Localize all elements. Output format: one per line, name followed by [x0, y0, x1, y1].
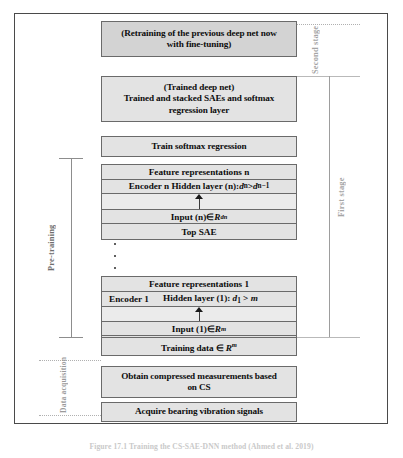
- second-stage-top-rule: [297, 24, 360, 25]
- retraining-line-1: (Retraining of the previous deep net now: [121, 28, 277, 40]
- top-sae-group: Feature representations n Encoder n Hidd…: [101, 164, 297, 240]
- data-acquisition-bottom-rule: [39, 415, 101, 416]
- vertical-ellipsis-icon: [112, 243, 118, 269]
- top-sae-name-row: Top SAE: [102, 224, 296, 239]
- top-sae-hidden-row: Encoder n Hidden layer (n): dn > dn−1: [102, 180, 296, 195]
- obtain-cs-line-2: on CS: [187, 382, 210, 394]
- data-acquisition-top-rule: [39, 360, 101, 361]
- retraining-block: (Retraining of the previous deep net now…: [101, 21, 297, 57]
- retraining-line-2: with fine-tuning): [167, 39, 231, 51]
- top-sae-input-row: Input (n) ∈ Rdn: [102, 210, 296, 225]
- top-sae-features-label: Feature representations n: [149, 167, 250, 177]
- train-softmax-label: Train softmax regression: [151, 141, 246, 153]
- obtain-cs-line-1: Obtain compressed measurements based: [121, 371, 277, 383]
- first-sae-hidden-rel: >: [241, 293, 251, 303]
- top-sae-name: Top SAE: [181, 227, 216, 237]
- trained-deep-net-line-2: Trained and stacked SAEs and softmax: [124, 93, 275, 105]
- obtain-cs-block: Obtain compressed measurements based on …: [101, 366, 297, 398]
- trained-deep-net-line-1: (Trained deep net): [164, 82, 235, 94]
- first-sae-input-row: Input (1) ∈ Rm: [102, 322, 296, 337]
- first-stage-spine: [329, 76, 330, 337]
- up-arrow-icon: [195, 194, 204, 209]
- top-sae-hidden-label: Hidden layer (n):: [171, 181, 239, 191]
- first-sae-encoder-label: Encoder 1: [109, 294, 149, 304]
- training-data-member: ∈: [216, 343, 226, 353]
- first-sae-features-label: Feature representations 1: [149, 279, 249, 289]
- training-data-expression: Training data ∈ Rm: [161, 339, 237, 355]
- figure-caption: Figure 17.1 Training the CS-SAE-DNN meth…: [0, 442, 403, 451]
- top-sae-hidden-rhs-sub: n−1: [258, 181, 270, 191]
- top-sae-encoder-label: Encoder n: [129, 181, 169, 191]
- first-sae-features-row: Feature representations 1: [102, 277, 296, 292]
- first-sae-hidden-expression: Hidden layer (1): d1 > m: [149, 293, 296, 306]
- second-stage-label: Second stage: [311, 30, 320, 74]
- top-sae-input-exponent-sub: n: [224, 212, 228, 222]
- first-sae-hidden-label: Hidden layer (1):: [163, 293, 233, 303]
- first-sae-connector-row: [102, 307, 296, 322]
- first-stage-bottom-rule: [297, 337, 360, 338]
- figure-frame: Second stage First stage Pre-training Da…: [14, 13, 388, 424]
- pretraining-label: Pre-training: [47, 209, 56, 287]
- pretraining-bracket: [59, 158, 83, 338]
- first-sae-input-exponent: m: [221, 324, 226, 334]
- first-sae-input-member: ∈: [207, 324, 215, 334]
- training-data-prefix: Training data: [161, 343, 216, 353]
- acquire-signals-label: Acquire bearing vibration signals: [135, 406, 263, 418]
- data-acquisition-label: Data acquisition: [59, 365, 68, 413]
- training-data-block: Training data ∈ Rm: [101, 337, 297, 356]
- trained-deep-net-line-3: regression layer: [169, 105, 230, 117]
- train-softmax-block: Train softmax regression: [101, 136, 297, 157]
- top-sae-input-prefix: Input (n): [171, 212, 207, 222]
- up-arrow-icon: [195, 307, 204, 321]
- training-data-exponent: m: [232, 341, 237, 348]
- first-sae-input-prefix: Input (1): [172, 324, 207, 334]
- first-stage-label: First stage: [337, 157, 346, 217]
- trained-deep-net-block: (Trained deep net) Trained and stacked S…: [101, 76, 297, 122]
- top-sae-features-row: Feature representations n: [102, 165, 296, 180]
- top-sae-connector-row: [102, 194, 296, 210]
- acquire-signals-block: Acquire bearing vibration signals: [101, 402, 297, 422]
- first-sae-hidden-row: Encoder 1 Hidden layer (1): d1 > m: [102, 292, 296, 308]
- first-sae-hidden-rhs: m: [251, 293, 258, 303]
